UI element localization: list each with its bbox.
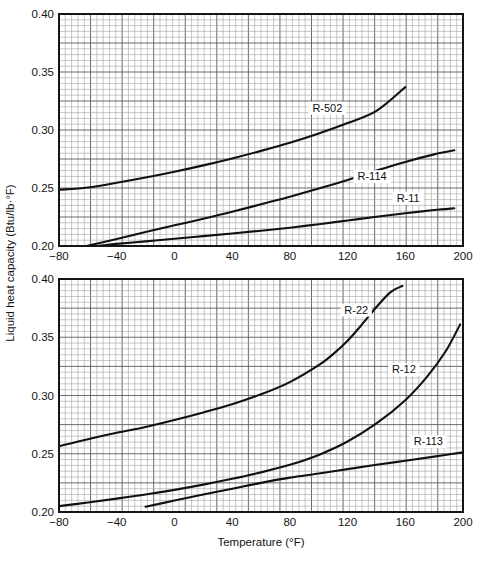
y-tick-label: 0.30 [32,124,54,136]
x-tick-label: 80 [283,250,296,262]
x-tick-label: 0 [171,250,177,262]
series-label-r-22: R-22 [344,304,368,316]
x-tick-label: 200 [453,250,472,262]
grid-top-panel [59,14,463,246]
y-tick-label: 0.35 [32,66,54,78]
y-tick-label: 0.40 [32,8,54,20]
y-tick-label: 0.35 [32,331,54,343]
y-tick-label: 0.20 [32,506,54,518]
y-tick-label: 0.25 [32,182,54,194]
series-label-r-12: R-12 [392,363,416,375]
x-tick-label: −40 [107,250,127,262]
x-tick-label: 160 [396,516,415,528]
x-tick-label: 160 [396,250,415,262]
x-tick-label: 40 [226,516,239,528]
x-tick-label: 200 [453,516,472,528]
series-label-r-502: R-502 [312,102,342,114]
y-tick-label: 0.25 [32,448,54,460]
liquid-heat-capacity-figure: R-502R-114R-11 R-22R-12R-113 −80−4004080… [0,0,482,562]
x-tick-label: 40 [226,250,239,262]
figure-container: R-502R-114R-11 R-22R-12R-113 −80−4004080… [0,0,482,562]
x-tick-label: 120 [338,250,357,262]
x-tick-label: 120 [338,516,357,528]
x-tick-label: −40 [107,516,127,528]
y-axis-title: Liquid heat capacity (Btu/lb·°F) [4,184,16,342]
series-label-r-11: R-11 [397,192,420,204]
series-label-r-113: R-113 [414,435,443,447]
x-axis-title: Temperature (°F) [217,536,304,548]
series-label-r-114: R-114 [358,170,387,182]
y-tick-label: 0.20 [32,240,54,252]
x-tick-label: 80 [283,516,296,528]
y-tick-label: 0.40 [32,273,54,285]
y-tick-label: 0.30 [32,390,54,402]
grid-bottom-panel [59,279,463,512]
x-tick-label: 0 [171,516,177,528]
